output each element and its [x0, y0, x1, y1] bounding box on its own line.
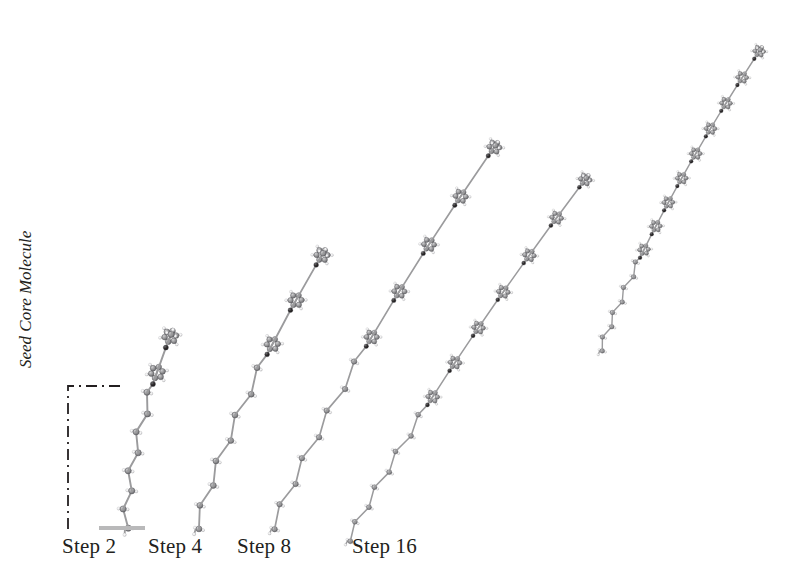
step-label-4: Step 4 [148, 534, 202, 559]
molecule-chains [117, 43, 768, 546]
substrate-line [99, 526, 145, 530]
seed-core-bracket [68, 386, 120, 532]
molecule-canvas [0, 0, 795, 586]
step-label-16: Step 16 [352, 534, 417, 559]
step-label-2: Step 2 [62, 534, 116, 559]
molecular-growth-figure: Seed Core Molecule Step 2 Step 4 Step 8 … [0, 0, 795, 586]
step-label-8: Step 8 [237, 534, 291, 559]
seed-core-molecule-label: Seed Core Molecule [16, 208, 36, 368]
